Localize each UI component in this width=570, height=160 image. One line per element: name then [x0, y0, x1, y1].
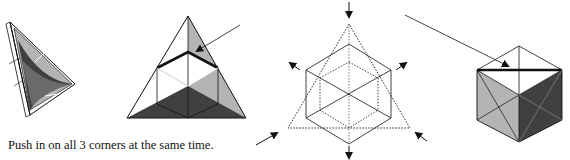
figure-3-overlay — [256, 2, 427, 158]
instruction-caption: Push in on all 3 corners at the same tim… — [8, 138, 214, 153]
figure-1-tetrahedron — [6, 22, 75, 117]
diagram: Push in on all 3 corners at the same tim… — [0, 0, 570, 160]
figure-4-cube — [405, 15, 562, 142]
figure-2-triangle-cube-corner — [127, 16, 246, 118]
